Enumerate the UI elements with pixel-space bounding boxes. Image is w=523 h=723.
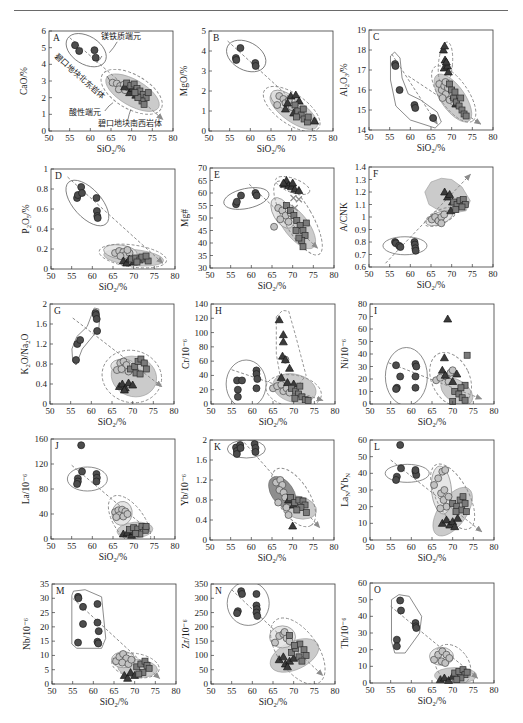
x-tick-label: 70 [127, 133, 137, 143]
x-tick-label: 65 [268, 270, 278, 280]
data-point-sq [454, 677, 460, 683]
x-tick-label: 60 [87, 406, 97, 416]
field-solid [221, 34, 271, 78]
data-point-mafic [398, 465, 405, 472]
data-point-sq [146, 665, 152, 671]
data-point-sq [464, 352, 470, 358]
x-tick-label: 60 [88, 271, 98, 281]
y-tick-label: 1.6 [36, 319, 48, 329]
data-point-lightc [442, 467, 449, 474]
data-point-mafic [413, 625, 420, 632]
y-tick-label: 1.2 [36, 339, 47, 349]
data-point-mafic [254, 376, 261, 383]
y-tick-label: 0 [204, 679, 209, 689]
y-axis-title: Yb/10⁻⁶ [180, 474, 190, 506]
data-point-mafic [397, 442, 404, 449]
panel-d-p2o5-vs-sio2: 5055606570758000.20.40.60.81SiO2/%P2O5/%… [11, 161, 181, 297]
x-tick-label: 70 [448, 685, 458, 695]
y-tick-label: 0 [204, 399, 209, 409]
panel-letter: K [214, 442, 221, 452]
data-point-mafic [397, 244, 404, 251]
data-point-sq [305, 397, 311, 403]
x-axis-title: SiO2/% [417, 143, 446, 154]
x-axis-title: SiO2/% [418, 553, 447, 564]
panel-a-cao-vs-sio2: 505560657075800123456SiO2/%CaO/%A镁铁质端元碧口… [9, 23, 179, 159]
field-solid [383, 237, 427, 255]
data-point-sq [296, 235, 302, 241]
data-point-lightc [441, 211, 448, 218]
y-tick-label: 10 [358, 518, 368, 528]
y-tick-label: 60 [358, 578, 368, 588]
x-tick-label: 70 [128, 406, 138, 416]
y-tick-label: 0.8 [36, 359, 48, 369]
x-tick-label: 55 [227, 406, 237, 416]
data-point-tri [441, 42, 449, 49]
x-tick-label: 70 [289, 686, 299, 696]
chart-svg: 50556065707580050100150200250300350SiO2/… [171, 576, 341, 712]
y-tick-label: 30 [40, 593, 50, 603]
plot-area [72, 308, 168, 409]
y-tick-label: 1.3 [355, 175, 367, 185]
data-point-mafic [73, 357, 80, 364]
y-tick-label: 80 [199, 342, 209, 352]
panel-l-lan-ybn-vs-sio2: 505560657075800102030405060SiO2/%LaN/YbN… [330, 432, 500, 568]
data-point-mafic [412, 247, 419, 254]
y-axis-title: Cr/10⁻⁶ [181, 339, 191, 369]
data-point-mafic [237, 45, 244, 52]
plot-area [222, 173, 331, 262]
data-point-sq [463, 113, 469, 119]
y-tick-label: 200 [195, 622, 209, 632]
data-point-lightc [285, 512, 292, 519]
x-tick-label: 75 [149, 406, 159, 416]
data-point-mafic [393, 477, 400, 484]
x-tick-label: 75 [309, 542, 319, 552]
data-point-sq [145, 90, 151, 96]
data-point-sq [141, 360, 147, 366]
data-point-mafic [75, 639, 82, 646]
x-tick-label: 65 [108, 406, 118, 416]
y-tick-label: 30 [198, 263, 208, 273]
y-tick-label: 0.8 [196, 495, 208, 505]
x-tick-label: 65 [427, 269, 437, 279]
data-point-mafic [80, 603, 87, 610]
data-point-sq [447, 81, 453, 87]
x-tick-label: 75 [310, 686, 320, 696]
x-tick-label: 60 [88, 541, 98, 551]
data-point-sq [291, 642, 297, 648]
y-tick-label: 2 [42, 93, 47, 103]
data-point-mafic [393, 386, 400, 393]
y-tick-label: 40 [358, 349, 368, 359]
y-tick-label: 0.6 [37, 204, 49, 214]
y-axis-title: CaO/% [19, 67, 29, 95]
x-tick-label: 75 [148, 133, 158, 143]
x-tick-label: 70 [287, 133, 297, 143]
y-tick-label: 35 [40, 579, 50, 589]
data-point-sq [300, 244, 306, 250]
data-point-lightc [439, 95, 446, 102]
data-point-sq [293, 228, 299, 234]
x-tick-label: 55 [386, 685, 396, 695]
chart-annotation: 碧口地块南西岩体 [98, 118, 162, 128]
x-tick-label: 55 [227, 686, 237, 696]
data-point-mafic [393, 362, 400, 369]
data-point-lightc [283, 504, 290, 511]
data-point-tri [279, 331, 287, 338]
x-tick-label: 80 [489, 132, 499, 142]
data-point-sq [294, 507, 300, 513]
panel-letter: G [54, 306, 61, 316]
x-tick-label: 75 [309, 270, 319, 280]
y-tick-label: 1.1 [355, 200, 366, 210]
x-tick-label: 65 [269, 406, 279, 416]
x-tick-label: 70 [447, 269, 457, 279]
data-point-mafic [94, 619, 101, 626]
y-tick-label: 25 [40, 608, 50, 618]
chart-svg: 5055606570758001020304050607080SiO2/%Ni/… [330, 296, 500, 432]
y-tick-label: 0 [363, 399, 368, 409]
panel-k-yb-vs-sio2: 5055606570758000.40.81.21.62SiO2/%Yb/10⁻… [170, 432, 340, 568]
data-point-sq [137, 371, 143, 377]
panel-letter: H [215, 306, 222, 316]
data-point-sq [452, 89, 458, 95]
y-tick-label: 20 [358, 502, 368, 512]
y-tick-label: 0 [363, 535, 368, 545]
x-tick-label: 70 [130, 686, 140, 696]
